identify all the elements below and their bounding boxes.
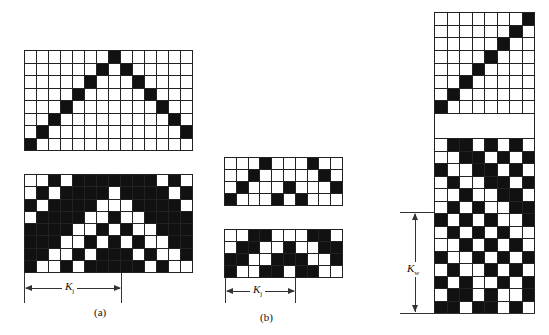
grid-cell <box>109 212 120 223</box>
grid-cell <box>181 126 192 138</box>
grid-cell <box>169 76 180 88</box>
grid-cell <box>435 38 447 50</box>
grid-cell <box>133 236 144 247</box>
grid-cell <box>85 139 96 151</box>
grid-cell <box>448 202 460 214</box>
grid-cell <box>260 194 271 205</box>
grid-cell <box>61 187 72 198</box>
grid-cell <box>109 76 120 88</box>
grid-cell <box>181 212 192 223</box>
grid-cell <box>523 227 535 239</box>
grid-cell <box>61 200 72 211</box>
grid-cell <box>37 76 48 88</box>
grid-cell <box>181 64 192 76</box>
grid-cell <box>319 254 330 265</box>
grid-cell <box>260 266 271 277</box>
grid-cell <box>485 89 497 101</box>
grid-cell <box>448 289 460 301</box>
grid-cell <box>73 64 84 76</box>
grid-cell <box>460 289 472 301</box>
grid-cell <box>61 139 72 151</box>
grid-cell <box>169 187 180 198</box>
grid-cell <box>523 214 535 226</box>
grid-cell <box>97 51 108 63</box>
grid-cell <box>460 164 472 176</box>
grid-cell <box>435 51 447 63</box>
grid-cell <box>133 51 144 63</box>
grid-cell <box>169 249 180 260</box>
grid-cell <box>272 170 283 181</box>
grid-cell <box>448 239 460 251</box>
grid-cell <box>510 51 522 63</box>
grid-cell <box>435 239 447 251</box>
grid-cell <box>331 194 342 205</box>
arrow-left-icon <box>25 285 32 291</box>
grid-cell <box>61 76 72 88</box>
grid-cell <box>157 101 168 113</box>
grid-cell <box>448 26 460 38</box>
grid-cell <box>296 230 307 241</box>
grid-cell <box>523 76 535 88</box>
grid-cell <box>510 214 522 226</box>
grid-cell <box>510 202 522 214</box>
grid-cell <box>485 227 497 239</box>
grid-cell <box>308 194 319 205</box>
grid-cell <box>97 76 108 88</box>
grid-cell <box>133 89 144 101</box>
grid-cell <box>145 126 156 138</box>
grid-cell <box>73 114 84 126</box>
arrow-down-icon <box>412 305 418 312</box>
grid-cell <box>435 164 447 176</box>
grid-cell <box>145 139 156 151</box>
grid-cell <box>523 152 535 164</box>
grid-cell <box>133 101 144 113</box>
grid-cell <box>485 164 497 176</box>
grid-cell <box>181 139 192 151</box>
grid-cell <box>97 64 108 76</box>
grid-cell <box>49 249 60 260</box>
grid-cell <box>498 164 510 176</box>
grid-cell <box>37 212 48 223</box>
grid-cell <box>37 64 48 76</box>
grid-cell <box>237 158 248 169</box>
grid-cell <box>157 89 168 101</box>
grid-cell <box>97 249 108 260</box>
grid-cell <box>73 139 84 151</box>
grid-cell <box>485 38 497 50</box>
panel-b-k-right-tick <box>295 278 296 303</box>
grid-cell <box>435 152 447 164</box>
grid-cell <box>85 224 96 235</box>
grid-cell <box>169 139 180 151</box>
grid-cell <box>169 175 180 186</box>
panel-c-baseline <box>400 313 535 314</box>
grid-cell <box>181 236 192 247</box>
grid-cell <box>498 264 510 276</box>
grid-cell <box>319 266 330 277</box>
grid-cell <box>260 254 271 265</box>
grid-cell <box>73 51 84 63</box>
grid-cell <box>510 277 522 289</box>
grid-cell <box>331 170 342 181</box>
grid-cell <box>85 249 96 260</box>
grid-cell <box>237 266 248 277</box>
grid-cell <box>523 252 535 264</box>
grid-cell <box>296 266 307 277</box>
grid-cell <box>121 224 132 235</box>
grid-cell <box>25 101 36 113</box>
grid-cell <box>510 38 522 50</box>
grid-cell <box>85 51 96 63</box>
grid-cell <box>296 194 307 205</box>
grid-cell <box>498 152 510 164</box>
grid-cell <box>435 302 447 314</box>
grid-cell <box>73 236 84 247</box>
grid-cell <box>37 249 48 260</box>
panel-a-caption: (a) <box>94 306 106 318</box>
grid-cell <box>460 152 472 164</box>
grid-cell <box>37 89 48 101</box>
grid-cell <box>109 261 120 272</box>
grid-cell <box>121 101 132 113</box>
grid-cell <box>331 242 342 253</box>
grid-cell <box>448 177 460 189</box>
grid-cell <box>73 175 84 186</box>
grid-cell <box>485 202 497 214</box>
